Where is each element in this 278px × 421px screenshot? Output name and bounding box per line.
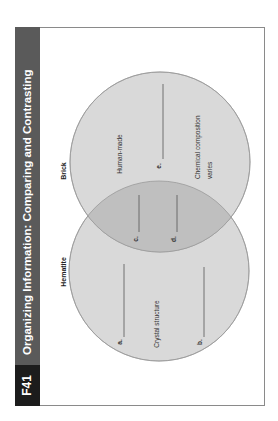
blank-label-e: e. (155, 163, 162, 168)
venn-diagram (16, 26, 266, 405)
brick-fact-chemical-composition: Chemical composition varies (192, 115, 216, 179)
brick-title: Brick (60, 162, 67, 180)
worksheet: F41 Organizing Information: Comparing an… (15, 27, 265, 406)
brick-fact-human-made: Human-made (116, 134, 123, 173)
blank-label-c: c. (132, 236, 139, 241)
fact-line-1: Chemical composition (192, 115, 204, 179)
blank-label-b: b. (196, 339, 203, 345)
blank-label-d: d. (170, 236, 177, 242)
fact-line-2: varies (204, 115, 216, 179)
blank-label-a: a. (116, 339, 123, 344)
hematite-title: Hematite (60, 257, 67, 287)
hematite-fact-crystal-structure: Crystal structure (153, 300, 160, 347)
